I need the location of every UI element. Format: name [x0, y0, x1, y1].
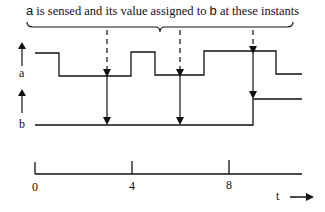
signal-a-label: a: [19, 67, 24, 79]
sample-instant-markers: [107, 30, 253, 70]
signal-b-waveform: [35, 99, 302, 125]
time-axis: [35, 160, 302, 174]
tick-label-4: 4: [129, 180, 135, 192]
tick-label-8: 8: [226, 179, 232, 191]
signal-a-axis-arrow: [18, 42, 26, 66]
signal-b-label: b: [19, 118, 25, 130]
transfer-arrows: [107, 53, 253, 118]
time-direction-arrow: [290, 193, 314, 201]
timing-diagram: [0, 0, 325, 212]
signal-a-waveform: [35, 51, 302, 76]
signal-b-axis-arrow: [18, 89, 26, 113]
time-axis-label: t: [276, 190, 279, 202]
tick-label-0: 0: [32, 181, 38, 193]
